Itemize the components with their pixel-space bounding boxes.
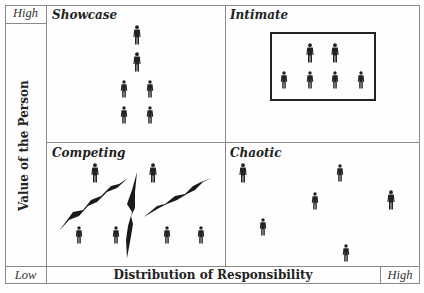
y-axis-low-label: Low bbox=[5, 268, 46, 283]
person-icon bbox=[387, 190, 395, 210]
person-icon bbox=[306, 71, 314, 89]
y-axis-column-divider bbox=[46, 5, 47, 284]
person-icon bbox=[306, 43, 314, 63]
person-icon bbox=[311, 192, 319, 210]
quadrant-title-showcase: Showcase bbox=[52, 8, 117, 22]
x-axis-row-divider bbox=[5, 266, 420, 267]
x-axis-high-label: High bbox=[380, 268, 420, 283]
person-icon bbox=[146, 106, 154, 124]
lightning-bolt-icon bbox=[126, 172, 137, 258]
intimate-group-box bbox=[270, 32, 376, 101]
high-label-divider bbox=[5, 23, 46, 24]
quadrant-horizontal-divider bbox=[46, 142, 420, 143]
person-icon bbox=[331, 71, 339, 89]
person-icon bbox=[239, 163, 247, 183]
person-icon bbox=[357, 71, 365, 89]
quadrant-title-intimate: Intimate bbox=[230, 8, 288, 22]
person-icon bbox=[120, 80, 128, 98]
person-icon bbox=[331, 43, 339, 63]
person-icon bbox=[280, 71, 288, 89]
person-icon bbox=[146, 80, 154, 98]
quadrant-vertical-divider bbox=[225, 5, 226, 266]
lightning-bolts bbox=[55, 160, 225, 260]
person-icon bbox=[120, 106, 128, 124]
y-axis-title: Value of the Person bbox=[17, 81, 33, 211]
lightning-bolt-icon bbox=[59, 178, 128, 231]
person-icon bbox=[336, 164, 344, 182]
person-icon bbox=[133, 25, 141, 45]
person-icon bbox=[259, 218, 267, 236]
quadrant-title-chaotic: Chaotic bbox=[230, 146, 281, 160]
x-axis-title: Distribution of Responsibility bbox=[46, 268, 380, 282]
person-icon bbox=[342, 244, 350, 262]
quadrant-title-competing: Competing bbox=[52, 146, 126, 160]
y-axis-high-label: High bbox=[5, 6, 46, 21]
lightning-bolt-icon bbox=[144, 178, 212, 217]
person-icon bbox=[133, 52, 141, 72]
